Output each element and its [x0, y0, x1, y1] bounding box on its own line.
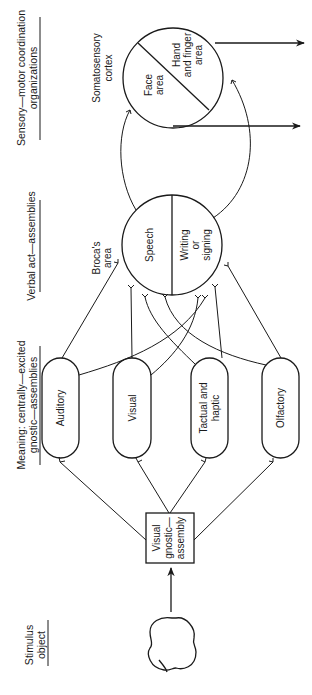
face-label-line2: area: [154, 75, 165, 95]
neural-assembly-diagram: Stimulus object Meaning: centrally—excit…: [0, 0, 312, 695]
visual-gnostic-assembly-box: Visual gnostic— assembly: [146, 513, 194, 563]
brocas-area-caption: Broca's area: [91, 241, 113, 274]
tactual-label-line2: haptic: [210, 395, 221, 422]
header-verbal-line1: Verbal act—assemblies: [25, 191, 37, 301]
header-meaning: Meaning: centrally—excited gnostic—assem…: [15, 340, 40, 469]
gnostic-assembly-olfactory: Olfactory: [262, 358, 299, 458]
somatosensory-cortex-circle: Face area Hand and finger area: [123, 28, 223, 128]
box-label-line3: assembly: [175, 517, 186, 559]
face-label-line1: Face: [143, 73, 154, 96]
header-verbal: Verbal act—assemblies: [25, 191, 40, 301]
brocas-caption-line2: area: [102, 248, 113, 268]
hand-label-line1: Hand: [171, 43, 182, 67]
header-meaning-line1: Meaning: centrally—excited: [15, 340, 27, 469]
auditory-label: Auditory: [55, 390, 66, 427]
writing-label-line3: signing: [201, 229, 212, 261]
gnostic-assembly-visual: Visual: [113, 358, 151, 458]
header-stimulus-line2: object: [35, 631, 47, 659]
header-meaning-line2: gnostic—assemblies: [27, 357, 39, 453]
speech-label: Speech: [144, 228, 155, 262]
hand-label-line3: area: [193, 45, 204, 65]
gnostic-assembly-auditory: Auditory: [42, 358, 79, 458]
header-sensory-motor-line2: organizations: [27, 47, 39, 109]
header-sensory-motor-line1: Sensory—motor coordination: [15, 10, 27, 146]
brocas-area-circle: Speech Writing or signing: [122, 195, 222, 295]
header-stimulus-line1: Stimulus: [23, 625, 35, 665]
gnostic-assembly-tactual: Tactual and haptic: [191, 358, 228, 458]
hand-label-line2: and finger: [182, 32, 193, 77]
writing-label-line1: Writing: [179, 230, 190, 261]
visual-label: Visual: [127, 394, 138, 421]
header-stimulus-object: Stimulus object: [23, 620, 48, 666]
tactual-label-line1: Tactual and: [198, 382, 209, 433]
brocas-caption-line1: Broca's: [91, 241, 102, 274]
apple-icon: [149, 618, 196, 672]
somatosensory-caption: Somatosensory cortex: [91, 33, 114, 102]
somatosensory-caption-line2: cortex: [103, 54, 114, 81]
box-label-line1: Visual: [151, 524, 162, 551]
olfactory-label: Olfactory: [275, 388, 286, 428]
somatosensory-caption-line1: Somatosensory: [91, 33, 102, 102]
header-sensory-motor: Sensory—motor coordination organizations: [15, 10, 40, 146]
writing-label-line2: or: [190, 240, 201, 250]
box-label-line2: gnostic—: [163, 517, 174, 559]
